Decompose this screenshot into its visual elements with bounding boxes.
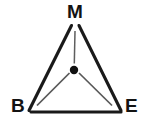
vertex-label-b: B <box>11 96 25 115</box>
vertex-label-e: E <box>125 96 138 115</box>
spoke-center-to-apex <box>74 31 75 64</box>
triangle-diagram: M B E <box>0 0 147 125</box>
center-point-dot <box>70 66 78 74</box>
vertex-label-m: M <box>67 2 83 21</box>
